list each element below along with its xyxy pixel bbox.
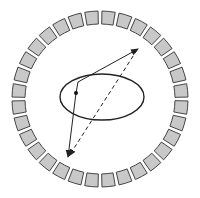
- ring-segment: [39, 153, 57, 171]
- ring-segment: [53, 162, 70, 179]
- ring-segment: [39, 27, 57, 45]
- ring-segment: [28, 142, 46, 160]
- ring-segment: [68, 13, 84, 29]
- ring-segment: [28, 38, 46, 56]
- ellipse: [60, 74, 144, 120]
- ring-segment: [14, 115, 30, 131]
- ring-segment: [163, 129, 180, 146]
- ring-segment: [154, 38, 172, 56]
- ring-ellipse-diagram: [0, 0, 200, 198]
- ring-segment: [116, 169, 132, 185]
- ring-segment: [154, 142, 172, 160]
- ring-segment: [170, 115, 186, 131]
- ring-segment: [174, 84, 188, 98]
- segmented-ring: [12, 11, 188, 187]
- ring-segment: [19, 129, 36, 146]
- ring-segment: [19, 52, 36, 69]
- ring-segment: [85, 11, 99, 25]
- ring-segment: [130, 18, 147, 35]
- ring-segment: [102, 11, 116, 25]
- ring-segment: [68, 169, 84, 185]
- ring-segment: [12, 84, 26, 98]
- ring-segment: [102, 173, 116, 187]
- dashed-arrow-line: [69, 50, 137, 156]
- ring-segment: [163, 52, 180, 69]
- ring-segment: [174, 101, 188, 115]
- ring-segment: [14, 67, 30, 83]
- ring-segment: [53, 18, 70, 35]
- ring-segment: [85, 173, 99, 187]
- ring-segment: [143, 153, 161, 171]
- point-marker: [74, 91, 78, 95]
- ring-segment: [130, 162, 147, 179]
- ring-segment: [12, 101, 26, 115]
- ring-segment: [143, 27, 161, 45]
- ring-segment: [170, 67, 186, 83]
- solid-arrow-up: [76, 49, 138, 93]
- ring-segment: [116, 13, 132, 29]
